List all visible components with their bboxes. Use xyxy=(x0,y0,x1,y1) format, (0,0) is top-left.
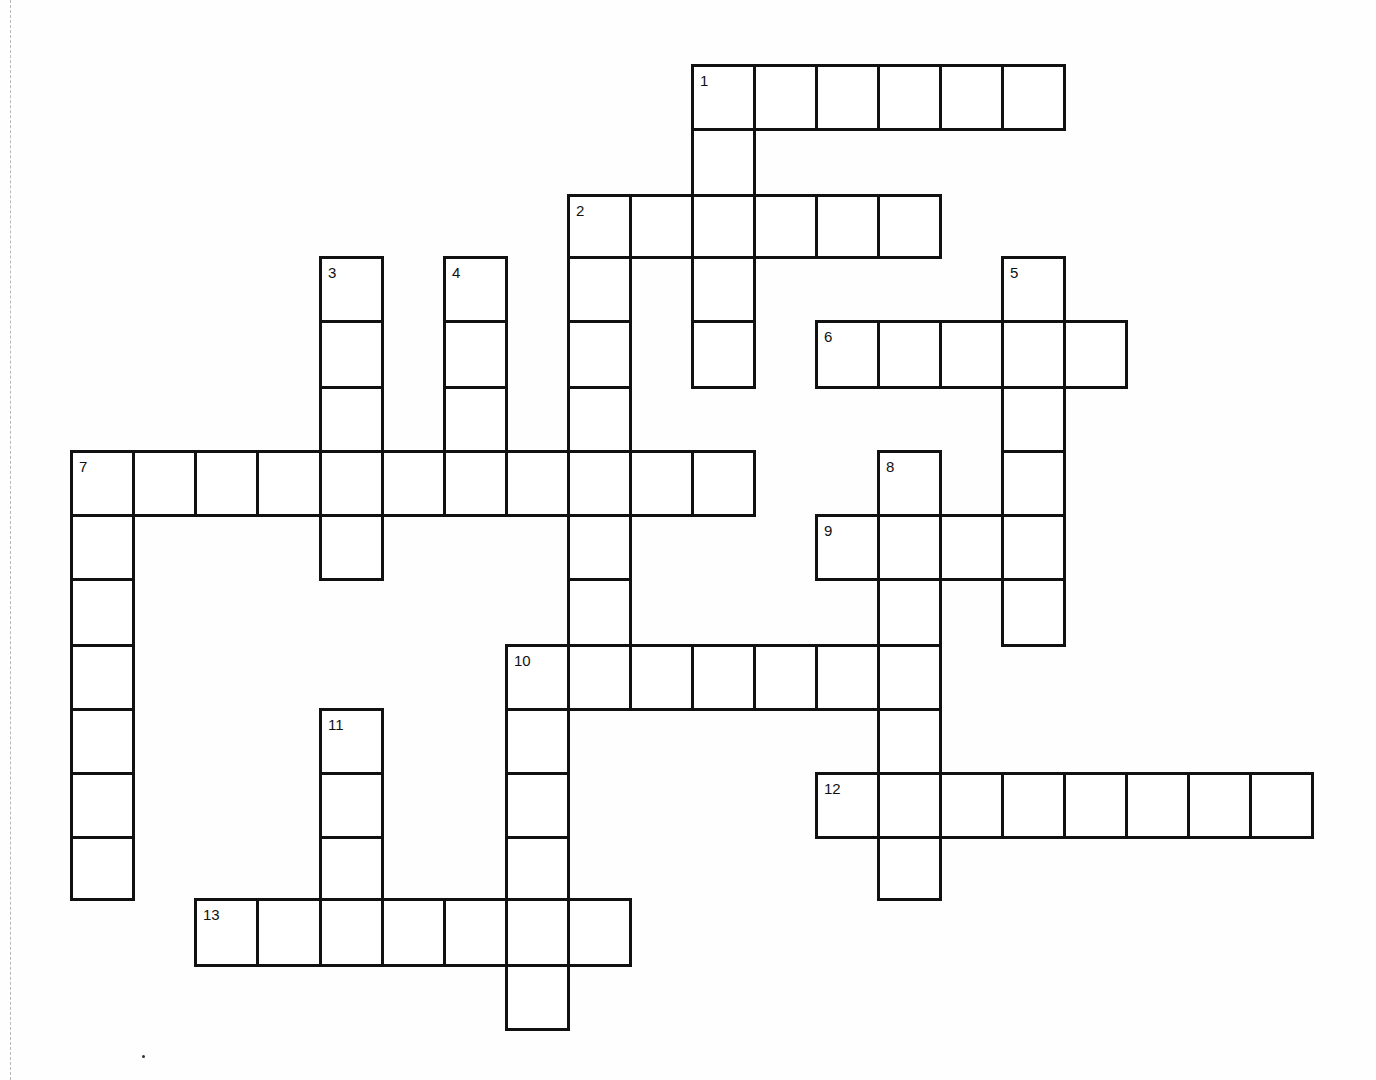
crossword-cell[interactable] xyxy=(1001,64,1066,131)
crossword-cell[interactable] xyxy=(319,386,384,453)
crossword-cell[interactable] xyxy=(1001,386,1066,453)
crossword-cell[interactable] xyxy=(939,320,1004,389)
crossword-cell[interactable] xyxy=(567,320,632,389)
crossword-cell[interactable] xyxy=(319,898,384,967)
crossword-cell[interactable] xyxy=(877,578,942,647)
letter-input[interactable] xyxy=(1004,323,1063,386)
letter-input[interactable] xyxy=(818,775,877,836)
letter-input[interactable] xyxy=(570,453,629,514)
letter-input[interactable] xyxy=(1004,67,1063,128)
crossword-cell[interactable] xyxy=(815,194,880,259)
crossword-cell[interactable] xyxy=(567,256,632,323)
crossword-cell[interactable] xyxy=(629,644,694,711)
crossword-cell[interactable] xyxy=(70,644,135,711)
crossword-cell[interactable] xyxy=(691,128,756,197)
letter-input[interactable] xyxy=(880,711,939,772)
crossword-cell[interactable] xyxy=(132,450,197,517)
letter-input[interactable] xyxy=(880,517,939,578)
letter-input[interactable] xyxy=(322,901,381,964)
letter-input[interactable] xyxy=(880,453,939,514)
crossword-cell[interactable] xyxy=(443,386,508,453)
crossword-cell[interactable]: 10 xyxy=(505,644,570,711)
crossword-cell[interactable]: 5 xyxy=(1001,256,1066,323)
letter-input[interactable] xyxy=(756,67,815,128)
letter-input[interactable] xyxy=(570,647,629,708)
crossword-cell[interactable] xyxy=(815,644,880,711)
letter-input[interactable] xyxy=(73,775,132,836)
letter-input[interactable] xyxy=(322,517,381,578)
letter-input[interactable] xyxy=(570,197,629,256)
crossword-cell[interactable] xyxy=(567,450,632,517)
letter-input[interactable] xyxy=(508,711,567,772)
letter-input[interactable] xyxy=(570,259,629,320)
crossword-cell[interactable] xyxy=(70,578,135,647)
letter-input[interactable] xyxy=(632,647,691,708)
letter-input[interactable] xyxy=(508,453,567,514)
crossword-cell[interactable] xyxy=(1001,450,1066,517)
crossword-cell[interactable] xyxy=(939,772,1004,839)
letter-input[interactable] xyxy=(73,453,132,514)
crossword-cell[interactable] xyxy=(1001,320,1066,389)
crossword-cell[interactable] xyxy=(505,772,570,839)
letter-input[interactable] xyxy=(73,581,132,644)
letter-input[interactable] xyxy=(632,453,691,514)
crossword-cell[interactable] xyxy=(877,514,942,581)
letter-input[interactable] xyxy=(73,647,132,708)
crossword-cell[interactable]: 7 xyxy=(70,450,135,517)
crossword-cell[interactable] xyxy=(567,514,632,581)
crossword-cell[interactable] xyxy=(815,64,880,131)
letter-input[interactable] xyxy=(880,67,939,128)
crossword-cell[interactable] xyxy=(319,320,384,389)
letter-input[interactable] xyxy=(1066,775,1125,836)
letter-input[interactable] xyxy=(1190,775,1249,836)
letter-input[interactable] xyxy=(322,839,381,898)
crossword-cell[interactable] xyxy=(319,836,384,901)
crossword-cell[interactable] xyxy=(691,256,756,323)
letter-input[interactable] xyxy=(942,517,1001,578)
letter-input[interactable] xyxy=(446,259,505,320)
letter-input[interactable] xyxy=(446,901,505,964)
crossword-cell[interactable] xyxy=(1001,578,1066,647)
crossword-cell[interactable]: 3 xyxy=(319,256,384,323)
crossword-cell[interactable] xyxy=(1001,772,1066,839)
crossword-cell[interactable] xyxy=(1249,772,1314,839)
letter-input[interactable] xyxy=(694,453,753,514)
letter-input[interactable] xyxy=(570,389,629,450)
letter-input[interactable] xyxy=(694,647,753,708)
crossword-cell[interactable] xyxy=(381,898,446,967)
crossword-cell[interactable] xyxy=(70,772,135,839)
crossword-cell[interactable] xyxy=(319,514,384,581)
letter-input[interactable] xyxy=(322,389,381,450)
letter-input[interactable] xyxy=(322,259,381,320)
crossword-cell[interactable] xyxy=(567,386,632,453)
letter-input[interactable] xyxy=(818,517,877,578)
letter-input[interactable] xyxy=(632,197,691,256)
crossword-cell[interactable] xyxy=(443,898,508,967)
crossword-cell[interactable] xyxy=(505,898,570,967)
crossword-cell[interactable] xyxy=(939,64,1004,131)
crossword-cell[interactable] xyxy=(381,450,446,517)
letter-input[interactable] xyxy=(508,839,567,898)
crossword-cell[interactable] xyxy=(629,450,694,517)
crossword-cell[interactable] xyxy=(505,964,570,1031)
letter-input[interactable] xyxy=(322,775,381,836)
crossword-cell[interactable]: 8 xyxy=(877,450,942,517)
letter-input[interactable] xyxy=(880,775,939,836)
letter-input[interactable] xyxy=(73,839,132,898)
letter-input[interactable] xyxy=(694,259,753,320)
crossword-cell[interactable] xyxy=(567,898,632,967)
crossword-cell[interactable] xyxy=(1125,772,1190,839)
letter-input[interactable] xyxy=(197,453,256,514)
crossword-cell[interactable] xyxy=(753,194,818,259)
letter-input[interactable] xyxy=(942,775,1001,836)
crossword-cell[interactable] xyxy=(877,772,942,839)
letter-input[interactable] xyxy=(259,453,319,514)
crossword-cell[interactable] xyxy=(1063,772,1128,839)
crossword-cell[interactable]: 1 xyxy=(691,64,756,131)
crossword-cell[interactable] xyxy=(443,320,508,389)
letter-input[interactable] xyxy=(756,647,815,708)
crossword-cell[interactable] xyxy=(505,836,570,901)
crossword-cell[interactable]: 6 xyxy=(815,320,880,389)
letter-input[interactable] xyxy=(694,197,753,256)
letter-input[interactable] xyxy=(73,711,132,772)
